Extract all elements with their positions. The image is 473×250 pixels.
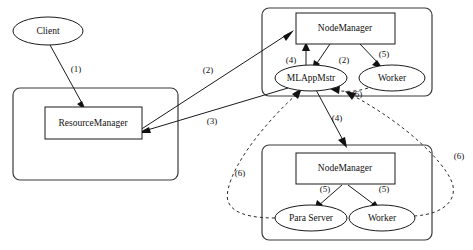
edge-label-4b: (4) [332, 113, 343, 123]
node-client[interactable]: Client [13, 17, 83, 45]
edge-label-4a: (4) [286, 55, 297, 65]
edge-2a [140, 30, 294, 130]
edge-label-5b: (5) [320, 184, 331, 194]
node-nodemanager-bottom[interactable]: NodeManager [296, 153, 395, 184]
node-para-server[interactable]: Para Server [275, 205, 347, 231]
edge-label-2a: (2) [203, 65, 214, 75]
edge-label-6c: (6) [352, 89, 363, 99]
edge-6a [227, 88, 302, 218]
node-worker-top-label: Worker [378, 73, 407, 83]
node-resourcemanager[interactable]: ResourceManager [45, 107, 142, 139]
edge-label-3: (3) [207, 116, 218, 126]
node-resourcemanager-label: ResourceManager [58, 118, 128, 128]
node-nodemanager-top[interactable]: NodeManager [296, 13, 395, 44]
node-client-label: Client [36, 26, 60, 36]
edge-label-1: (1) [71, 64, 82, 74]
node-para-server-label: Para Server [289, 213, 334, 223]
node-nodemanager-bottom-label: NodeManager [318, 163, 373, 173]
diagram-root: Client ResourceManager NodeManager MLApp… [0, 0, 473, 250]
edge-label-5a: (5) [379, 49, 390, 59]
edge-label-2b: (2) [339, 55, 350, 65]
node-mlappmstr[interactable]: MLAppMstr [275, 65, 347, 91]
node-worker-bottom-label: Worker [368, 213, 397, 223]
edge-4a [302, 42, 310, 68]
architecture-diagram: Client ResourceManager NodeManager MLApp… [0, 0, 473, 250]
node-mlappmstr-label: MLAppMstr [287, 73, 336, 83]
node-worker-bottom[interactable]: Worker [349, 205, 415, 231]
node-nodemanager-top-label: NodeManager [318, 23, 373, 33]
edge-label-6b: (6) [454, 151, 465, 161]
edge-label-5c: (5) [379, 184, 390, 194]
edge-1 [50, 45, 86, 111]
node-worker-top[interactable]: Worker [359, 65, 425, 91]
edge-label-6a: (6) [235, 168, 246, 178]
